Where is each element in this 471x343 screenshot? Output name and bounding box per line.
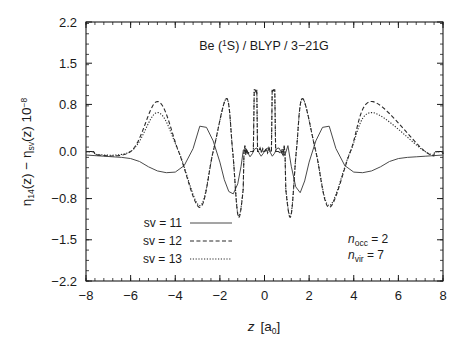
chart-annotations: nocc = 2 nvir = 7	[348, 232, 389, 264]
series-line-sv-12	[86, 90, 443, 218]
chart-figure: −8−6−4−202468 2.21.50.80.0−0.8−1.5−2.2 B…	[0, 0, 471, 343]
y-tick-label: 0.0	[59, 144, 77, 159]
chart-legend: sv = 11 sv = 12 sv = 13	[143, 216, 232, 266]
x-tick-label: −8	[79, 288, 94, 303]
annotation-n-vir: nvir = 7	[348, 248, 384, 264]
series-line-sv-13	[86, 90, 443, 217]
x-tick-label: −6	[123, 288, 138, 303]
chart-title: Be (1S) / BLYP / 3−21G	[199, 38, 329, 53]
series-line-sv-11	[86, 126, 443, 194]
legend-label-sv-13: sv = 13	[143, 252, 182, 266]
x-axis-tick-labels: −8−6−4−202468	[79, 288, 447, 303]
x-tick-label: 2	[306, 288, 313, 303]
legend-label-sv-11: sv = 11	[144, 216, 182, 230]
x-axis-label: z[a0]	[247, 319, 281, 336]
x-tick-label: −2	[212, 288, 227, 303]
x-tick-label: 0	[261, 288, 268, 303]
x-tick-label: −4	[168, 288, 183, 303]
y-tick-label: 0.8	[59, 97, 77, 112]
y-tick-label: 2.2	[59, 15, 77, 30]
y-tick-label: 1.5	[59, 56, 77, 71]
y-axis-tick-labels: 2.21.50.80.0−0.8−1.5−2.2	[51, 15, 77, 289]
y-axis-label: η14(z) − ηsv(z) 10−8	[19, 98, 36, 207]
x-tick-label: 6	[395, 288, 402, 303]
y-tick-label: −2.2	[51, 274, 77, 289]
y-tick-label: −1.5	[51, 232, 77, 247]
chart-canvas: −8−6−4−202468 2.21.50.80.0−0.8−1.5−2.2 B…	[0, 0, 471, 343]
x-tick-label: 4	[350, 288, 357, 303]
x-tick-label: 8	[439, 288, 446, 303]
y-tick-label: −0.8	[51, 191, 77, 206]
annotation-n-occ: nocc = 2	[348, 232, 389, 248]
legend-label-sv-12: sv = 12	[143, 234, 182, 248]
